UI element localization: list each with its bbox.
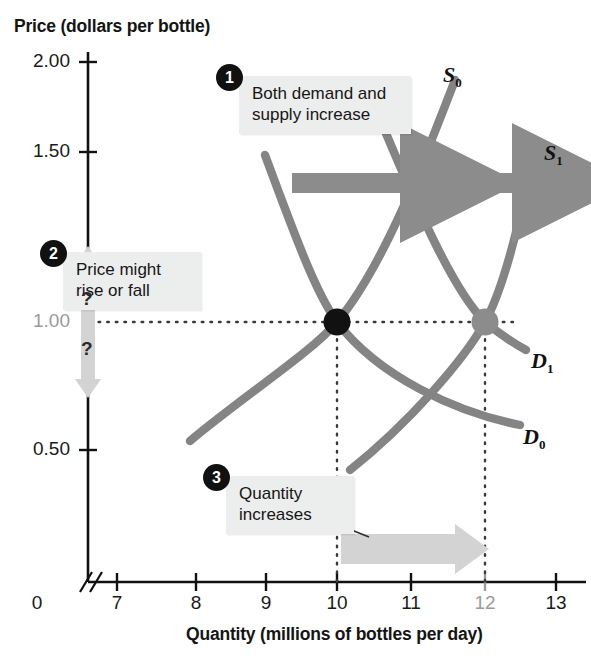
curve-label-s0-text: S — [443, 62, 455, 87]
y-tick-label-0-50: 0.50 — [12, 438, 70, 460]
y-tick-label-1-50: 1.50 — [12, 140, 70, 162]
x-tick-label-12: 12 — [468, 592, 502, 614]
curve-label-d0-sub: 0 — [539, 437, 546, 452]
x-tick-label-13: 13 — [539, 592, 573, 614]
x-tick-label-7: 7 — [100, 592, 134, 614]
curve-label-s1: S1 — [544, 140, 563, 169]
curve-label-d1: D1 — [531, 348, 553, 377]
y-tick-label-1-00: 1.00 — [12, 310, 70, 332]
callout-1-bullet: 1 — [216, 64, 243, 91]
x-tick-label-9: 9 — [249, 592, 283, 614]
quantity-increase-arrow — [341, 524, 489, 574]
x-tick-label-0: 0 — [20, 592, 54, 614]
curve-label-d0-text: D — [523, 424, 539, 449]
curve-d0 — [265, 155, 520, 425]
x-tick-label-10: 10 — [320, 592, 354, 614]
curve-label-s1-text: S — [544, 140, 556, 165]
price-question-mark-lower: ? — [81, 338, 93, 360]
callout-3-bullet: 3 — [203, 464, 230, 491]
curve-label-d1-sub: 1 — [547, 361, 554, 376]
curve-d1 — [385, 131, 526, 350]
figure-canvas: Price (dollars per bottle) Quantity (mil… — [0, 0, 591, 660]
curve-label-d0: D0 — [523, 424, 545, 453]
price-question-mark-upper: ? — [81, 288, 93, 310]
x-tick-label-11: 11 — [394, 592, 428, 614]
curve-label-d1-text: D — [531, 348, 547, 373]
curve-label-s0-sub: 0 — [455, 75, 462, 90]
x-axis-title: Quantity (millions of bottles per day) — [186, 624, 483, 645]
y-tick-label-2-00: 2.00 — [12, 50, 70, 72]
callout-2-bullet: 2 — [40, 240, 67, 267]
callout-1-box: Both demand and supply increase — [239, 76, 411, 134]
callout-3-box: Quantity increases — [226, 476, 354, 534]
x-tick-label-8: 8 — [179, 592, 213, 614]
y-axis-title: Price (dollars per bottle) — [14, 16, 210, 37]
curve-label-s0: S0 — [443, 62, 462, 91]
curve-label-s1-sub: 1 — [556, 153, 563, 168]
